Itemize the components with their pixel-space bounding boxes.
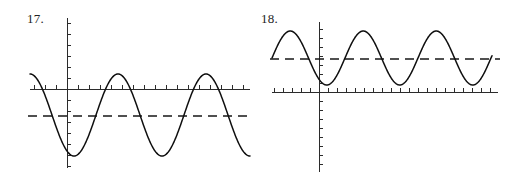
figure-sheet: 17. 18. xyxy=(0,0,510,186)
figure-17-panel: 17. xyxy=(0,0,255,186)
figure-17-plot xyxy=(0,0,255,186)
figure-18-plot xyxy=(255,0,510,186)
x-axis-ticks xyxy=(274,88,490,92)
sinusoid-curve xyxy=(272,31,492,85)
y-axis-ticks xyxy=(67,23,71,166)
figure-18-panel: 18. xyxy=(255,0,510,186)
x-axis-ticks xyxy=(34,85,243,89)
y-axis-ticks xyxy=(319,29,323,164)
sinusoid-curve xyxy=(30,74,250,156)
